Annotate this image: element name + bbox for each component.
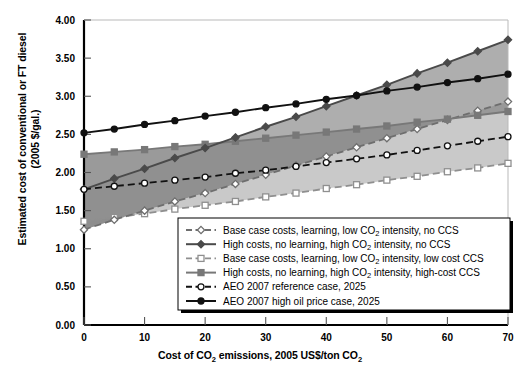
data-point-open-circle: [475, 138, 481, 144]
x-axis-title-pre: Cost of CO: [158, 349, 212, 361]
data-point-filled-circle: [354, 92, 360, 98]
data-point-filled-square: [142, 147, 148, 153]
y-tick-label: 1.50: [56, 205, 76, 216]
data-point-open-square: [384, 177, 390, 183]
data-point-filled-circle: [198, 298, 204, 304]
data-point-open-square: [81, 218, 87, 224]
y-axis-ticks: 0.000.501.001.502.002.503.003.504.00: [56, 15, 91, 331]
data-point-filled-square: [263, 135, 269, 141]
data-point-open-square: [444, 169, 450, 175]
legend-label-5: AEO 2007 high oil price case, 2025: [223, 296, 380, 307]
data-point-filled-square: [354, 126, 360, 132]
data-point-open-circle: [505, 134, 511, 140]
legend-label-4: AEO 2007 reference case, 2025: [223, 281, 366, 292]
data-point-open-circle: [232, 170, 238, 176]
data-point-filled-circle: [263, 105, 269, 111]
y-tick-label: 0.00: [56, 320, 76, 331]
data-point-open-square: [293, 190, 299, 196]
legend: Base case costs, learning, low CO2 inten…: [178, 218, 513, 313]
data-point-filled-square: [81, 151, 87, 157]
data-point-open-square: [172, 206, 178, 212]
x-tick-label: 30: [260, 332, 272, 343]
data-point-filled-circle: [202, 113, 208, 119]
data-point-open-circle: [172, 177, 178, 183]
data-point-filled-square: [293, 132, 299, 138]
data-point-open-square: [505, 160, 511, 166]
data-point-filled-square: [323, 129, 329, 135]
data-point-filled-circle: [293, 101, 299, 107]
data-point-open-circle: [142, 180, 148, 186]
data-point-filled-circle: [475, 76, 481, 82]
data-point-open-square: [232, 198, 238, 204]
data-point-filled-square: [475, 112, 481, 118]
y-tick-label: 3.00: [56, 91, 76, 102]
data-point-filled-square: [505, 109, 511, 115]
y-tick-label: 2.00: [56, 167, 76, 178]
x-axis-title-mid: emissions, 2005 US$/ton CO: [216, 349, 358, 361]
y-tick-label: 0.50: [56, 281, 76, 292]
x-tick-label: 20: [200, 332, 212, 343]
chart-canvas: 0.000.501.001.502.002.503.003.504.000102…: [0, 0, 520, 372]
data-point-open-circle: [354, 156, 360, 162]
data-point-open-square: [198, 255, 204, 261]
chart-figure: Estimated cost of conventional or FT die…: [0, 0, 520, 372]
data-point-filled-circle: [142, 121, 148, 127]
y-tick-label: 1.00: [56, 243, 76, 254]
data-point-filled-circle: [414, 84, 420, 90]
data-point-open-square: [354, 182, 360, 188]
data-point-filled-square: [414, 119, 420, 125]
x-tick-label: 10: [139, 332, 151, 343]
data-point-filled-square: [172, 144, 178, 150]
x-tick-label: 60: [442, 332, 454, 343]
y-tick-label: 3.50: [56, 53, 76, 64]
data-point-filled-square: [111, 149, 117, 155]
x-axis-ticks: 010203040506070: [81, 317, 514, 343]
x-tick-label: 50: [381, 332, 393, 343]
data-point-filled-circle: [232, 109, 238, 115]
data-point-filled-circle: [444, 80, 450, 86]
data-point-open-square: [323, 186, 329, 192]
data-point-filled-circle: [323, 96, 329, 102]
data-point-open-circle: [111, 183, 117, 189]
data-point-open-square: [263, 194, 269, 200]
x-axis-title: Cost of CO2 emissions, 2005 US$/ton CO2: [0, 349, 520, 364]
y-tick-label: 4.00: [56, 15, 76, 26]
data-point-open-circle: [293, 163, 299, 169]
data-point-filled-circle: [81, 130, 87, 136]
data-point-open-circle: [263, 167, 269, 173]
data-point-open-circle: [81, 186, 87, 192]
data-point-open-circle: [323, 160, 329, 166]
data-point-open-circle: [414, 147, 420, 153]
data-point-open-circle: [384, 152, 390, 158]
data-point-filled-square: [384, 123, 390, 129]
data-point-filled-circle: [111, 126, 117, 132]
data-point-open-square: [202, 202, 208, 208]
data-point-filled-circle: [172, 118, 178, 124]
data-point-open-square: [475, 165, 481, 171]
data-point-open-square: [414, 173, 420, 179]
data-point-open-circle: [198, 284, 204, 290]
x-axis-title-sub2: 2: [358, 355, 362, 364]
data-point-filled-square: [444, 116, 450, 122]
data-point-open-circle: [444, 143, 450, 149]
x-tick-label: 0: [81, 332, 87, 343]
y-tick-label: 2.50: [56, 129, 76, 140]
data-point-filled-square: [198, 270, 204, 276]
data-point-open-circle: [202, 174, 208, 180]
x-tick-label: 40: [321, 332, 333, 343]
data-point-filled-circle: [505, 71, 511, 77]
data-point-filled-circle: [384, 88, 390, 94]
x-tick-label: 70: [502, 332, 514, 343]
